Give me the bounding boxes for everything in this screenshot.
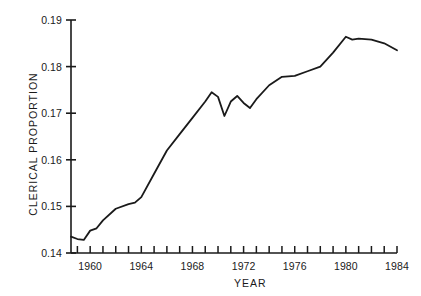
x-axis-label: YEAR [234,277,267,289]
x-tick-label: 1964 [129,260,153,272]
x-tick-label: 1980 [334,260,358,272]
x-tick-label: 1960 [78,260,102,272]
x-tick-label: 1968 [181,260,205,272]
y-tick-label: 0.16 [20,154,62,166]
y-tick-label: 0.17 [20,107,62,119]
chart-plot-area [0,0,421,296]
clerical-proportion-line [71,37,397,240]
y-tick-label: 0.18 [20,61,62,73]
x-tick-label: 1976 [283,260,307,272]
y-tick-label: 0.14 [20,247,62,259]
x-tick-label: 1972 [232,260,256,272]
x-axis-ticks [77,246,397,253]
chart-figure: CLERICAL PROPORTION YEAR 0.140.150.160.1… [0,0,421,296]
x-tick-label: 1984 [385,260,409,272]
axis-lines [71,20,397,253]
y-tick-label: 0.19 [20,14,62,26]
y-tick-label: 0.15 [20,200,62,212]
